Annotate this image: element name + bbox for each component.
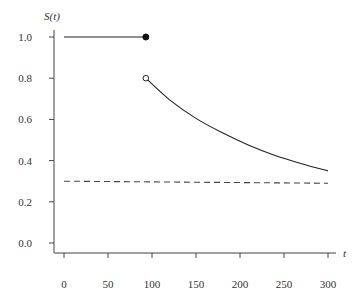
x-tick-label: 250 bbox=[276, 278, 293, 290]
y-tick-label: 0.4 bbox=[18, 155, 32, 167]
axes bbox=[54, 30, 336, 253]
y-tick-label: 0.6 bbox=[18, 113, 32, 125]
series bbox=[64, 37, 328, 183]
x-tick-label: 150 bbox=[188, 278, 205, 290]
y-tick-label: 0.0 bbox=[18, 237, 32, 249]
y-tick-label: 0.8 bbox=[18, 72, 32, 84]
open-point-marker bbox=[143, 75, 149, 81]
markers bbox=[143, 34, 149, 81]
x-tick-label: 50 bbox=[103, 278, 115, 290]
series-line bbox=[64, 181, 328, 183]
x-axis-title: t bbox=[343, 247, 347, 259]
x-tick-label: 0 bbox=[61, 278, 67, 290]
y-tick-label: 0.2 bbox=[18, 196, 32, 208]
x-tick-label: 200 bbox=[232, 278, 249, 290]
survival-chart: 0.00.20.40.60.81.0050100150200250300 S(t… bbox=[0, 0, 364, 302]
x-tick-label: 100 bbox=[144, 278, 161, 290]
y-axis-title: S(t) bbox=[44, 10, 60, 23]
y-tick-label: 1.0 bbox=[18, 31, 32, 43]
ticks: 0.00.20.40.60.81.0050100150200250300 bbox=[18, 31, 337, 290]
x-tick-label: 300 bbox=[320, 278, 337, 290]
filled-point-marker bbox=[143, 34, 149, 40]
series-line bbox=[146, 78, 328, 171]
